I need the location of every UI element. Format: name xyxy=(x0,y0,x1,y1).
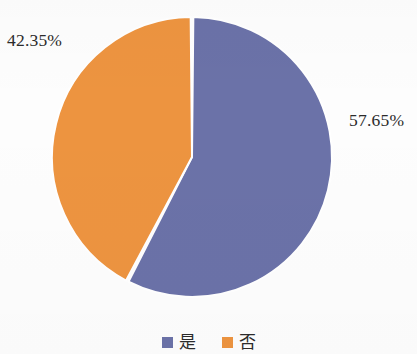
pie-plot-area xyxy=(0,0,417,320)
pie-chart: 42.35% 57.65% 是 否 xyxy=(0,0,417,354)
legend-swatch-icon-no xyxy=(222,337,233,348)
legend-item-no[interactable]: 否 xyxy=(222,334,256,351)
legend-label-yes: 是 xyxy=(179,334,196,351)
legend-label-no: 否 xyxy=(239,334,256,351)
legend-item-yes[interactable]: 是 xyxy=(162,334,196,351)
pie-svg xyxy=(0,0,417,320)
slice-value-label-no: 42.35% xyxy=(7,32,62,50)
legend-swatch-icon-yes xyxy=(162,337,173,348)
slice-value-label-yes: 57.65% xyxy=(349,112,404,130)
chart-legend: 是 否 xyxy=(0,330,417,354)
pie-slice-group xyxy=(52,17,332,297)
